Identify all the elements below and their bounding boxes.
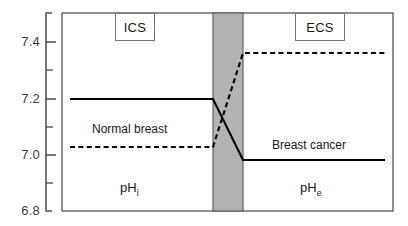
normal-breast-label: Normal breast	[92, 122, 167, 136]
membrane-band	[213, 13, 243, 211]
y-tick-label-6-8: 6.8	[6, 203, 40, 218]
ph-extracellular-text: pH	[300, 180, 317, 195]
ph-extracellular-subscript: e	[317, 188, 322, 198]
region-box-ecs: ECS	[295, 13, 345, 41]
ph-gradient-figure: 7.4 7.2 7.0 6.8 ICS ECS Normal breast Br…	[0, 0, 408, 226]
ph-extracellular-label: pHe	[300, 180, 322, 198]
ph-intracellular-label: pHi	[120, 180, 139, 198]
region-box-ics: ICS	[115, 13, 155, 41]
ph-intracellular-text: pH	[120, 180, 137, 195]
y-tick-label-7-2: 7.2	[6, 91, 40, 106]
ph-intracellular-subscript: i	[137, 188, 139, 198]
plot-area	[0, 0, 408, 226]
y-tick-label-7-0: 7.0	[6, 147, 40, 162]
breast-cancer-label: Breast cancer	[272, 138, 346, 152]
y-tick-label-7-4: 7.4	[6, 34, 40, 49]
